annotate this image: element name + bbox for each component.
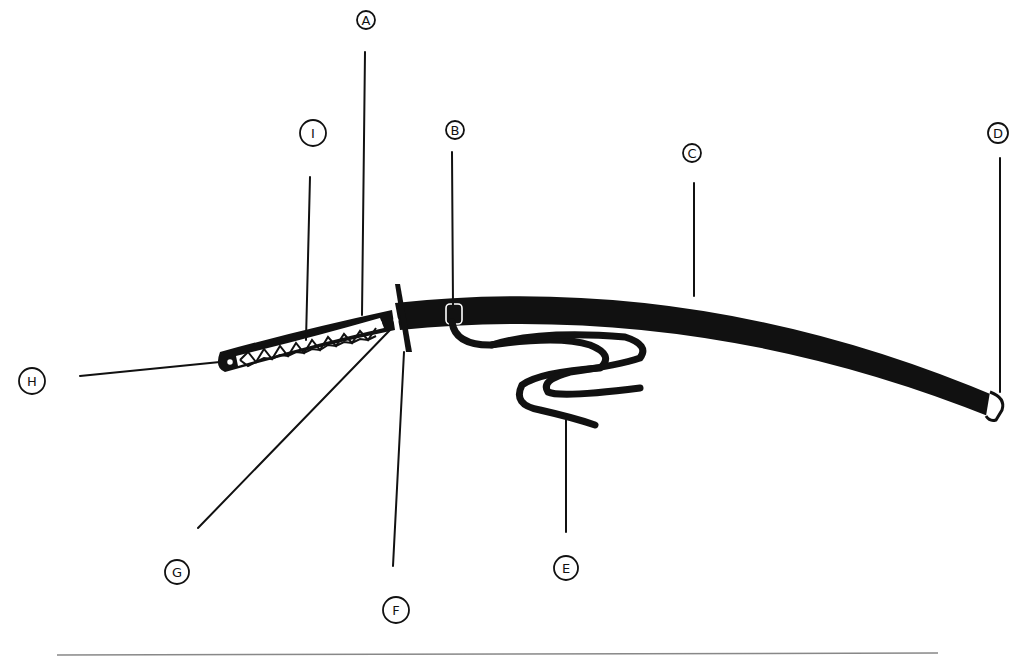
label-h: H [19,368,45,394]
tsuka-handle [218,310,399,372]
baseline-rule [57,653,938,655]
svg-text:B: B [451,123,460,138]
label-e: E [554,556,578,580]
label-a: A [357,11,375,29]
svg-text:E: E [562,561,570,576]
katana-diagram: A B C D E F G H I [0,0,1010,660]
svg-text:I: I [311,126,315,141]
label-i: I [300,120,326,146]
svg-text:D: D [993,126,1003,141]
label-f: F [383,597,409,623]
svg-text:H: H [27,374,37,389]
svg-text:C: C [687,146,696,161]
saya-scabbard [395,296,1003,420]
label-d: D [988,123,1008,143]
label-g: G [165,560,189,584]
svg-text:A: A [362,13,371,28]
label-b: B [446,121,464,139]
sageo-cord [452,322,643,425]
svg-text:G: G [172,565,182,580]
label-c: C [683,144,701,162]
svg-text:F: F [392,603,399,618]
